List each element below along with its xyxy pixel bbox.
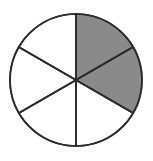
pie-chart-svg <box>0 0 153 161</box>
fraction-circle-figure <box>0 0 153 161</box>
